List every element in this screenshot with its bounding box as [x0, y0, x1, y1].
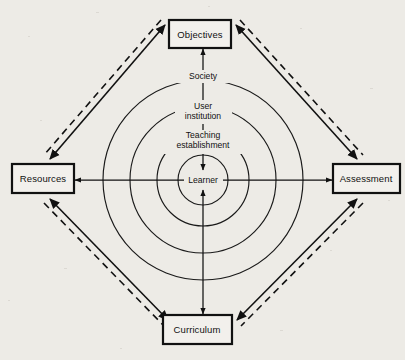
ring-label-society: Society [176, 70, 230, 83]
box-objectives[interactable]: Objectives [169, 20, 231, 48]
box-curriculum[interactable]: Curriculum [163, 315, 232, 344]
ring-label-user-institution-line1: User [194, 101, 212, 111]
edge-objectives-assessment [236, 20, 363, 159]
ring-label-society-text: Society [189, 71, 218, 81]
ring-label-user-institution-line2: institution [185, 111, 222, 121]
edge-resources-curriculum [44, 199, 168, 326]
ring-label-learner-text: Learner [188, 175, 218, 185]
box-resources[interactable]: Resources [12, 164, 74, 193]
ring-label-learner: Learner [184, 174, 223, 187]
ring-label-teaching-establishment-line2: establishment [176, 140, 230, 150]
ring-label-teaching-establishment-line1: Teaching [186, 130, 221, 140]
diagram-root: Society User institution Teaching establ… [0, 0, 405, 360]
box-resources-label: Resources [20, 173, 66, 184]
box-curriculum-label: Curriculum [174, 324, 221, 335]
edge-assessment-curriculum [237, 199, 363, 326]
ring-label-teaching-establishment: Teaching establishment [162, 130, 244, 154]
box-objectives-label: Objectives [177, 29, 223, 40]
edge-objectives-resources [44, 20, 165, 159]
box-assessment-label: Assessment [340, 173, 393, 184]
box-assessment[interactable]: Assessment [333, 164, 400, 193]
ring-label-user-institution: User institution [175, 100, 232, 124]
diagram-canvas: Society User institution Teaching establ… [0, 0, 405, 360]
